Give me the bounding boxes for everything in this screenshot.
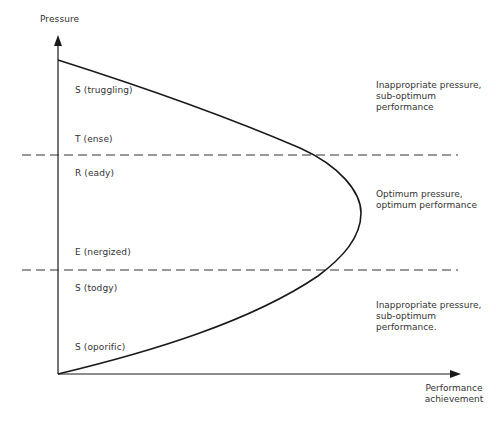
annotation-bottom: Inappropriate pressure, sub-optimum perf…	[376, 300, 481, 333]
zone-label-ready: R (eady)	[75, 168, 114, 179]
x-axis-label: Performance achievement	[412, 383, 496, 405]
x-axis-arrow-icon	[450, 370, 461, 378]
y-axis-arrow-icon	[54, 35, 62, 46]
zone-label-soporific: S (oporific)	[75, 342, 125, 353]
annotation-top: Inappropriate pressure, sub-optimum perf…	[376, 80, 481, 113]
zone-label-tense: T (ense)	[75, 134, 113, 145]
zone-label-stodgy: S (todgy)	[75, 283, 117, 294]
zone-label-energized: E (nergized)	[75, 247, 131, 258]
pressure-performance-diagram	[0, 0, 496, 423]
pressure-performance-curve	[58, 60, 361, 374]
y-axis-label: Pressure	[40, 14, 79, 25]
zone-label-struggling: S (truggling)	[75, 85, 133, 96]
annotation-middle: Optimum pressure, optimum performance	[376, 189, 477, 211]
